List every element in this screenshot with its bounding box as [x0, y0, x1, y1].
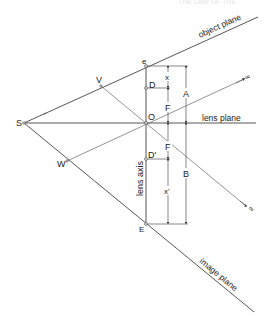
- point-d-prime-marker: [145, 158, 148, 161]
- point-o-marker: [145, 122, 148, 125]
- scheimpflug-diagram: THE LAW OF THE object plane lens plane i…: [0, 0, 270, 324]
- point-d-prime-label: D': [148, 150, 156, 160]
- page-header-right: THE LAW OF THE: [178, 0, 237, 5]
- point-E-marker: [145, 223, 148, 226]
- point-s-label: S: [16, 118, 22, 128]
- upper-infinity-label: ∞: [244, 72, 251, 80]
- image-plane-line: [24, 123, 254, 312]
- point-d-marker: [145, 87, 148, 90]
- object-plane-label: object plane: [197, 12, 243, 40]
- lens-plane-label: lens plane: [202, 113, 241, 123]
- f-bottom-label: F: [165, 142, 171, 152]
- image-plane-label: image plane: [198, 256, 240, 293]
- point-d-label: D: [149, 80, 156, 90]
- point-v-label: V: [96, 75, 102, 85]
- point-w-label: W: [57, 159, 66, 169]
- point-e-label: e: [142, 57, 147, 66]
- point-o-label: O: [148, 112, 155, 122]
- x-top-label: x: [165, 73, 169, 82]
- b-label: B: [183, 169, 189, 179]
- a-label: A: [183, 89, 189, 99]
- f-top-label: F: [165, 103, 171, 113]
- point-E-label: E: [139, 225, 144, 234]
- lower-infinity-arrow: [240, 201, 246, 206]
- lens-axis-label: lens axis: [135, 160, 145, 196]
- s-to-object-plane: [24, 113, 46, 123]
- point-w-marker: [66, 160, 68, 162]
- ray-v-through-o: [101, 86, 246, 206]
- object-plane-line: [44, 17, 258, 114]
- x-bottom-label: x': [164, 187, 170, 196]
- point-s-marker: [23, 122, 25, 124]
- lower-infinity-label: ∞: [247, 204, 255, 213]
- upper-infinity-arrow: [236, 79, 244, 83]
- point-v-marker: [100, 85, 102, 87]
